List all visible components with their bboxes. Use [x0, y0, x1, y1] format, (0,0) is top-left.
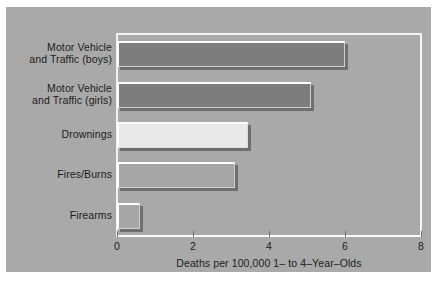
category-label-1: Motor Vehicleand Traffic (girls) — [8, 82, 112, 106]
category-label-line: Motor Vehicle — [8, 82, 112, 94]
category-label-line: Drownings — [8, 128, 112, 140]
category-label-line: Fires/Burns — [8, 168, 112, 180]
bar-0 — [117, 41, 345, 67]
bar-1 — [117, 82, 311, 108]
bar-4 — [117, 203, 140, 229]
x-axis-title: Deaths per 100,000 1– to 4–Year–Olds — [116, 257, 422, 270]
x-axis-ticks — [117, 231, 423, 239]
category-label-3: Fires/Burns — [8, 168, 112, 180]
tick-label-4: 8 — [406, 240, 436, 253]
category-label-4: Firearms — [8, 209, 112, 221]
tick-mark-0 — [117, 231, 118, 237]
category-label-2: Drownings — [8, 128, 112, 140]
tick-mark-2 — [269, 231, 270, 237]
tick-mark-1 — [193, 231, 194, 237]
tick-mark-4 — [421, 231, 422, 237]
tick-label-2: 4 — [254, 240, 284, 253]
bar-3 — [117, 162, 235, 188]
x-axis-tick-labels: 02468 — [6, 240, 437, 254]
bar-2 — [117, 122, 248, 148]
tick-label-1: 2 — [178, 240, 208, 253]
category-label-line: Firearms — [8, 209, 112, 221]
chart-panel: Motor Vehicleand Traffic (boys)Motor Veh… — [6, 7, 431, 272]
category-label-line: and Traffic (girls) — [8, 94, 112, 106]
category-label-line: Motor Vehicle — [8, 41, 112, 53]
tick-label-3: 6 — [330, 240, 360, 253]
chart-figure: Motor Vehicleand Traffic (boys)Motor Veh… — [0, 0, 437, 285]
plot-area — [117, 34, 421, 236]
tick-label-0: 0 — [102, 240, 132, 253]
category-label-0: Motor Vehicleand Traffic (boys) — [8, 41, 112, 65]
tick-mark-3 — [345, 231, 346, 237]
category-label-line: and Traffic (boys) — [8, 53, 112, 65]
category-axis-labels: Motor Vehicleand Traffic (boys)Motor Veh… — [6, 33, 112, 237]
